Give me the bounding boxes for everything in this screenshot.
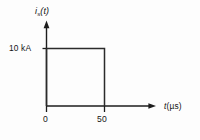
x-axis-label: t(µs) — [164, 102, 182, 110]
x-tick-label-0: 0 — [43, 115, 48, 124]
y-tick-label-10ka: 10 kA — [9, 44, 31, 52]
x-axis-label-unit: (µs) — [166, 101, 181, 111]
y-axis-label-suffix: (t) — [40, 6, 49, 16]
waveform-figure: is(t) t(µs) 10 kA 0 50 — [0, 0, 200, 140]
y-axis-arrow-icon — [44, 21, 50, 29]
pulse-waveform-trace — [47, 49, 105, 107]
y-axis-label-subscript: s — [37, 10, 40, 17]
x-axis-arrow-icon — [148, 103, 156, 109]
x-tick-label-50: 50 — [97, 115, 107, 124]
y-axis-label: is(t) — [35, 7, 49, 16]
